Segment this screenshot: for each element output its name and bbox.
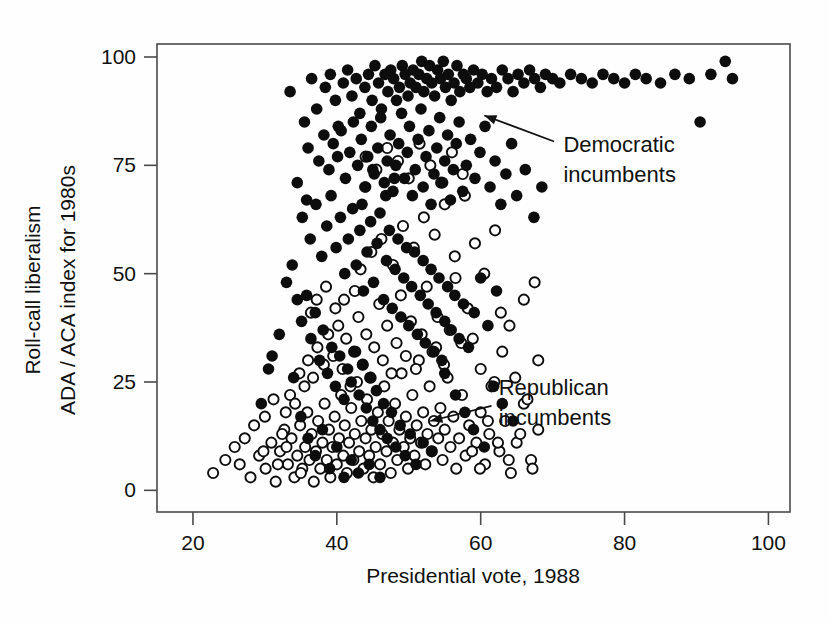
data-point-democratic: [338, 472, 350, 484]
data-point-democratic: [324, 463, 336, 475]
data-point-democratic: [437, 56, 449, 68]
data-point-democratic: [410, 459, 422, 471]
data-point-democratic: [417, 437, 429, 449]
data-point-democratic: [430, 307, 442, 319]
data-point-republican: [407, 390, 417, 400]
data-point-republican: [292, 451, 302, 461]
data-point-democratic: [366, 121, 378, 133]
data-point-democratic: [500, 168, 512, 180]
data-point-republican: [281, 442, 291, 452]
y-axis-ticks: 0255075100: [101, 45, 157, 501]
data-point-democratic: [576, 73, 588, 85]
data-point-republican: [321, 282, 331, 292]
data-point-republican: [401, 351, 411, 361]
data-point-democratic: [396, 108, 408, 120]
data-point-democratic: [684, 73, 696, 85]
data-point-democratic: [402, 90, 414, 102]
data-point-democratic: [301, 194, 313, 206]
data-point-democratic: [705, 69, 717, 81]
data-point-democratic: [395, 311, 407, 323]
democratic-annotation-line1: Democratic: [563, 132, 674, 157]
data-point-democratic: [309, 307, 321, 319]
data-point-democratic: [528, 212, 540, 224]
data-point-democratic: [409, 246, 421, 258]
data-point-republican: [235, 459, 245, 469]
data-point-democratic: [330, 95, 342, 107]
y-axis-title-line2: ADA / ACA index for 1980s: [56, 165, 79, 415]
data-point-republican: [386, 368, 396, 378]
data-point-republican: [515, 429, 525, 439]
data-point-democratic: [392, 233, 404, 245]
data-point-democratic: [518, 77, 530, 89]
data-point-democratic: [291, 177, 303, 189]
data-point-democratic: [393, 138, 405, 150]
data-point-republican: [369, 342, 379, 352]
data-point-democratic: [354, 225, 366, 237]
data-point-democratic: [398, 272, 410, 284]
data-point-democratic: [433, 272, 445, 284]
data-point-republican: [271, 477, 281, 487]
data-point-democratic: [297, 212, 309, 224]
data-point-democratic: [406, 281, 418, 293]
data-point-republican: [533, 355, 543, 365]
data-point-democratic: [313, 155, 325, 167]
y-tick-label: 25: [113, 370, 136, 393]
data-point-republican: [249, 420, 259, 430]
y-axis-title-line1: Roll-call liberalism: [21, 205, 44, 374]
data-point-democratic: [565, 69, 577, 81]
data-point-democratic: [453, 116, 465, 128]
data-point-republican: [308, 373, 318, 383]
data-point-democratic: [266, 350, 278, 362]
data-point-republican: [378, 355, 388, 365]
data-point-republican: [340, 420, 350, 430]
data-point-democratic: [316, 251, 328, 263]
data-point-democratic: [372, 142, 384, 154]
x-axis-ticks: 20406080100: [181, 512, 786, 554]
data-point-democratic: [463, 342, 475, 354]
data-point-democratic: [423, 125, 435, 137]
data-point-democratic: [468, 424, 480, 436]
data-point-republican: [412, 420, 422, 430]
data-point-democratic: [386, 407, 398, 419]
data-point-republican: [261, 464, 271, 474]
data-point-democratic: [554, 77, 566, 89]
data-point-republican: [454, 433, 464, 443]
data-point-republican: [240, 433, 250, 443]
data-point-republican: [490, 225, 500, 235]
data-point-republican: [467, 446, 477, 456]
scatter-plot-figure: 20406080100 0255075100 Democraticincumbe…: [0, 0, 829, 623]
data-point-democratic: [391, 95, 403, 107]
data-point-republican: [346, 403, 356, 413]
data-point-democratic: [364, 372, 376, 384]
data-point-democratic: [448, 164, 460, 176]
data-point-democratic: [428, 346, 440, 358]
data-point-republican: [530, 277, 540, 287]
data-point-democratic: [399, 450, 411, 462]
data-point-republican: [497, 347, 507, 357]
data-point-democratic: [375, 112, 387, 124]
data-point-democratic: [475, 272, 487, 284]
data-point-republican: [476, 364, 486, 374]
data-point-democratic: [506, 138, 518, 150]
data-point-republican: [220, 455, 230, 465]
data-point-democratic: [420, 151, 432, 163]
data-point-democratic: [314, 355, 326, 367]
data-point-democratic: [353, 389, 365, 401]
data-point-democratic: [389, 173, 401, 185]
data-point-democratic: [404, 121, 416, 133]
data-point-democratic: [378, 398, 390, 410]
republican-annotation-line1: Republican: [499, 375, 609, 400]
data-point-republican: [260, 412, 270, 422]
data-point-democratic: [384, 129, 396, 141]
y-tick-label: 75: [113, 153, 136, 176]
data-point-republican: [398, 221, 408, 231]
data-point-democratic: [350, 73, 362, 85]
data-point-democratic: [286, 259, 298, 271]
data-point-republican: [320, 399, 330, 409]
data-point-democratic: [428, 168, 440, 180]
data-point-democratic: [338, 394, 350, 406]
data-point-democratic: [378, 294, 390, 306]
x-tick-label: 80: [613, 531, 636, 554]
data-point-democratic: [317, 324, 329, 336]
data-point-republican: [506, 468, 516, 478]
